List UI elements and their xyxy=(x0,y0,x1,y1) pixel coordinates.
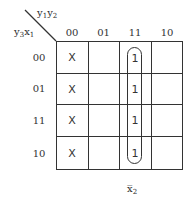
cell xyxy=(151,73,183,105)
row-variables-label: y3x1 xyxy=(14,27,34,40)
group-loop xyxy=(127,47,142,164)
cell: X xyxy=(56,73,88,105)
sub-1b: 1 xyxy=(30,31,34,39)
cell xyxy=(88,73,120,105)
col-header-10: 10 xyxy=(151,27,183,38)
group-label: x̅2 xyxy=(127,184,137,197)
cell xyxy=(88,41,120,73)
cell: X xyxy=(56,104,88,136)
sub-2: 2 xyxy=(53,12,57,20)
row-header-10: 10 xyxy=(28,148,50,159)
cell: X xyxy=(56,137,88,169)
row-header-00: 00 xyxy=(28,52,50,63)
group-sub: 2 xyxy=(133,188,137,196)
cell xyxy=(88,104,120,136)
cell xyxy=(151,104,183,136)
cell xyxy=(88,137,120,169)
row-header-11: 11 xyxy=(28,115,50,126)
col-header-00: 00 xyxy=(56,27,88,38)
cell xyxy=(151,41,183,73)
row-header-01: 01 xyxy=(28,83,50,94)
col-header-01: 01 xyxy=(88,27,119,38)
column-variables-label: y1y2 xyxy=(37,8,57,21)
cell xyxy=(151,137,183,169)
col-header-11: 11 xyxy=(119,27,151,38)
cell: X xyxy=(56,41,88,73)
